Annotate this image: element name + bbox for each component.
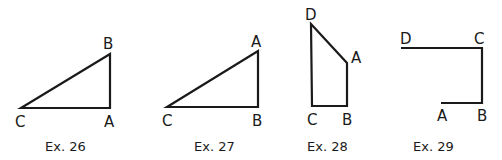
figure-ex-29: D C B A Ex. 29 (400, 30, 487, 154)
vertex-label: A (104, 113, 115, 131)
vertex-label: D (305, 6, 317, 24)
triangle-cab (167, 51, 258, 107)
figure-ex-27: C A B Ex. 27 (162, 33, 262, 154)
vertex-label: A (437, 107, 448, 125)
vertex-label: A (251, 33, 262, 51)
vertex-label: A (351, 49, 362, 67)
vertex-label: C (474, 30, 484, 48)
figure-caption: Ex. 29 (413, 139, 454, 154)
vertex-label: B (252, 112, 262, 130)
quadrilateral-dabc (311, 24, 347, 106)
vertex-label: B (342, 111, 352, 129)
open-polyline-dcba (401, 48, 482, 103)
figure-caption: Ex. 26 (45, 139, 86, 154)
triangle-cba (21, 54, 110, 108)
vertex-label: C (307, 111, 317, 129)
vertex-label: C (15, 113, 25, 131)
geometry-exercises-diagram: C B A Ex. 26 C A B Ex. 27 D A B C Ex. 28… (0, 0, 502, 160)
figure-caption: Ex. 27 (194, 139, 235, 154)
vertex-label: C (162, 112, 172, 130)
figure-caption: Ex. 28 (307, 139, 348, 154)
vertex-label: B (477, 107, 487, 125)
vertex-label: D (400, 30, 412, 48)
figure-ex-28: D A B C Ex. 28 (305, 6, 362, 154)
figure-ex-26: C B A Ex. 26 (15, 35, 115, 154)
vertex-label: B (103, 35, 113, 53)
